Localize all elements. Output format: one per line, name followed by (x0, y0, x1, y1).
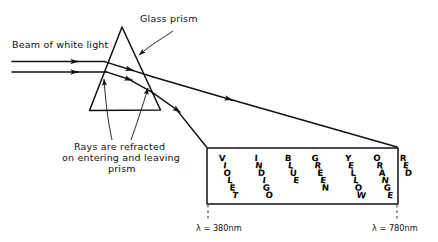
spectrum-letter: E (293, 175, 300, 186)
spectrum-letter: O (265, 190, 273, 201)
refraction-caption-line-2: on entering and leaving (62, 152, 180, 163)
diagram-canvas: Beam of white light Glass prism Rays are… (0, 0, 438, 242)
wavelength-left-label: λ = 380nm (196, 223, 242, 233)
refraction-caption-line-3: prism (108, 163, 136, 174)
spectrum-band: ORANGE (373, 153, 394, 200)
spectrum-band: VIOLET (219, 153, 239, 200)
refraction-caption-line-1: Rays are refracted (74, 141, 165, 152)
spectrum-band: BLUE (285, 153, 300, 186)
spectrum-band: GREEN (311, 153, 329, 193)
spectrum-letter: D (405, 168, 412, 178)
refraction-pointer-left (104, 79, 112, 140)
glass-prism-label: Glass prism (140, 13, 198, 24)
dispersion-diagram: Beam of white light Glass prism Rays are… (0, 0, 438, 242)
glass-prism-pointer (139, 31, 173, 55)
spectrum-letter: T (232, 190, 239, 201)
beam-label: Beam of white light (12, 39, 109, 50)
spectrum-band: INDIGO (254, 153, 273, 200)
exit-ray-lower (152, 92, 207, 147)
refraction-pointer-right (131, 88, 148, 140)
spectrum-band: RED (400, 153, 412, 178)
spectrum-band: YELLOW (344, 153, 367, 201)
wavelength-right-label: λ = 780nm (372, 223, 418, 233)
spectrum-letter: N (322, 182, 330, 192)
spectrum-letter: E (387, 190, 394, 201)
incident-white-light-rays (12, 62, 107, 73)
exit-ray-upper (153, 77, 398, 147)
spectrum-letter: W (356, 189, 367, 200)
spectrum-band-labels: VIOLETINDIGOBLUEGREENYELLOWORANGERED (219, 153, 412, 201)
